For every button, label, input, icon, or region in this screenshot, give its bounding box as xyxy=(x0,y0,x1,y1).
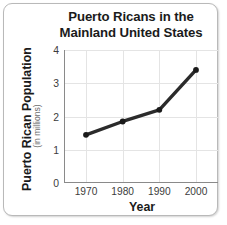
y-tick-label: 0 xyxy=(53,178,59,189)
plot-area: 01234 1970198019902000 xyxy=(64,50,218,183)
y-tick-label: 4 xyxy=(53,45,59,56)
x-tick-label: 1980 xyxy=(111,186,134,197)
page-title: Puerto Ricans in the Mainland United Sta… xyxy=(42,9,220,41)
data-series-line xyxy=(64,50,218,183)
chart-screenshot: Puerto Ricans in the Mainland United Sta… xyxy=(0,0,227,225)
y-axis-sublabel: (in millions) xyxy=(32,78,42,174)
data-point-marker xyxy=(120,119,126,125)
x-axis-label: Year xyxy=(62,200,222,214)
chart-title-line-2: Mainland United States xyxy=(42,25,220,41)
chart-title-line-1: Puerto Ricans in the xyxy=(42,9,220,25)
y-tick-label: 3 xyxy=(53,78,59,89)
data-point-marker xyxy=(156,107,162,113)
series-polyline xyxy=(86,70,196,135)
y-tick-label: 1 xyxy=(53,144,59,155)
x-tick-label: 1990 xyxy=(148,186,171,197)
x-tick-label: 2000 xyxy=(185,186,208,197)
data-point-marker xyxy=(83,132,89,138)
data-point-marker xyxy=(193,67,199,73)
y-tick-label: 2 xyxy=(53,111,59,122)
x-tick-label: 1970 xyxy=(75,186,98,197)
